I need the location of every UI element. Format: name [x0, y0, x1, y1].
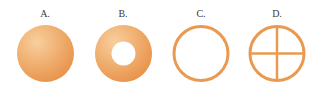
label-a: A.: [30, 8, 60, 19]
thin-ring-c: [174, 27, 228, 81]
solid-disk-a: [17, 25, 74, 82]
ring-with-cross-d: [250, 27, 304, 81]
label-b: B.: [108, 8, 138, 19]
label-d: D.: [262, 8, 292, 19]
annulus-disk-b: [95, 25, 152, 82]
label-c: C.: [186, 8, 216, 19]
